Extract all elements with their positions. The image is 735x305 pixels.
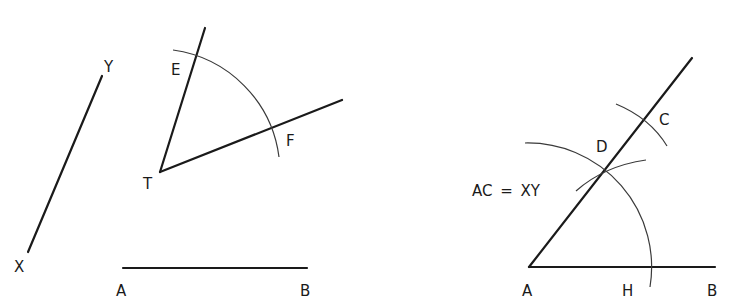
label-e: E (171, 61, 180, 79)
left-figure: X Y T E F A B (14, 28, 342, 300)
arc-ef (173, 50, 279, 157)
label-b-right: B (707, 282, 717, 300)
label-t: T (142, 175, 153, 193)
label-b-left: B (300, 282, 310, 300)
label-f: F (286, 132, 295, 150)
ray-tf (160, 100, 342, 172)
label-d: D (596, 138, 608, 156)
ray-te (160, 28, 205, 172)
label-a-left: A (116, 282, 127, 300)
label-y: Y (103, 58, 114, 76)
label-h: H (622, 282, 633, 300)
arc-dh (525, 143, 652, 287)
label-c: C (659, 111, 669, 129)
label-a-right: A (522, 282, 533, 300)
ray-ac (529, 58, 692, 267)
label-x: X (14, 258, 24, 276)
right-figure: A H B D C AC = XY (472, 58, 717, 300)
equation-ac-equals-xy: AC = XY (472, 182, 541, 200)
geometry-construction-diagram: X Y T E F A B A H B D C AC = XY (0, 0, 735, 305)
segment-xy (28, 76, 102, 252)
